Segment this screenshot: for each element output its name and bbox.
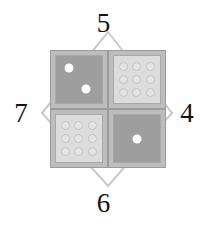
edge-number-bottom: 6 [0,190,207,217]
pip-grid [59,118,99,158]
pip [146,62,155,71]
pip [61,134,70,143]
pip [132,75,141,84]
pip-grid [117,59,157,99]
die-face-bottom-left [55,114,103,163]
die-bottom-left[interactable] [50,109,108,168]
pip [146,75,155,84]
pip [74,121,83,130]
pip [88,147,97,156]
die-top-right[interactable] [108,50,166,109]
edge-number-right: 4 [172,100,202,127]
pip [132,88,141,97]
dice-block [50,50,166,168]
pip [119,62,128,71]
die-face-top-right [113,55,161,104]
pip [74,147,83,156]
pip [119,75,128,84]
pip [64,64,73,73]
pip [88,121,97,130]
die-face-bottom-right [113,114,161,163]
pip [133,134,142,143]
pip [82,84,91,93]
pip [61,121,70,130]
pip [119,88,128,97]
die-bottom-right[interactable] [108,109,166,168]
pip [74,134,83,143]
puzzle-canvas: 5 4 6 7 [0,0,207,228]
die-top-left[interactable] [50,50,108,109]
pip [146,88,155,97]
pip [61,147,70,156]
edge-number-top: 5 [0,10,207,37]
pip [88,134,97,143]
die-face-top-left [55,55,103,104]
pip [132,62,141,71]
edge-number-left: 7 [6,100,36,127]
